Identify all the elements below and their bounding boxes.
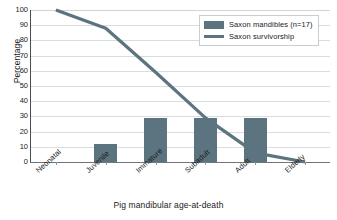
y-tick-label: 30 — [20, 113, 28, 121]
y-tick-label: 80 — [20, 37, 28, 45]
y-tick-label: 70 — [20, 52, 28, 60]
y-tick-label: 100 — [15, 6, 28, 14]
y-tick-label: 50 — [20, 82, 28, 90]
y-tick-label: 60 — [20, 67, 28, 75]
y-tick-label: 0 — [24, 158, 28, 166]
x-axis-title: Pig mandibular age-at-death — [0, 200, 337, 210]
x-axis-tick-labels: NeonatalJuvenileImmatureSubadultAdultEld… — [31, 165, 330, 203]
line-swatch-icon — [204, 35, 224, 38]
bar-swatch-icon — [204, 21, 224, 29]
y-tick-label: 40 — [20, 97, 28, 105]
legend-item-mandibles: Saxon mandibles (n=17) — [204, 20, 313, 29]
chart-legend: Saxon mandibles (n=17) Saxon survivorshi… — [199, 15, 319, 46]
legend-item-label: Saxon mandibles (n=17) — [229, 20, 313, 29]
chart-figure: Percentage 0102030405060708090100 Neonat… — [0, 0, 337, 220]
y-axis-tick-labels: 0102030405060708090100 — [8, 10, 28, 162]
legend-item-label: Saxon survivorship — [229, 32, 294, 41]
caption-fragment — [0, 212, 337, 220]
y-tick-label: 10 — [20, 143, 28, 151]
legend-item-survivorship: Saxon survivorship — [204, 32, 313, 41]
y-tick-label: 20 — [20, 128, 28, 136]
y-tick-label: 90 — [20, 21, 28, 29]
